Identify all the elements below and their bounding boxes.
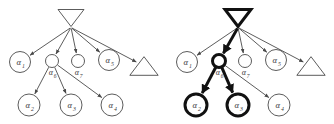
left-panel-node-tri_leaf-triangle	[130, 57, 158, 76]
svg-text:3: 3	[239, 106, 243, 112]
diagram-canvas: α1α6α7α5α2α3α4α1α6α7α5α2α3α4	[0, 0, 334, 124]
svg-text:5: 5	[111, 61, 114, 67]
highlighted-tree: α1α6α7α5α2α3α4	[177, 10, 326, 117]
right-panel-node-tri_leaf-triangle	[297, 57, 325, 76]
svg-text:1: 1	[189, 63, 192, 69]
svg-text:2: 2	[198, 106, 201, 112]
svg-text:α: α	[276, 100, 281, 110]
left-panel-node-a6	[46, 55, 59, 68]
tree-diagram-svg: α1α6α7α5α2α3α4α1α6α7α5α2α3α4	[0, 0, 334, 124]
right-panel-root-triangle-node	[225, 10, 251, 27]
svg-text:α: α	[68, 100, 73, 110]
right-panel-node-a6	[213, 55, 226, 68]
svg-text:5: 5	[278, 61, 281, 67]
edge-a6-to-a2	[35, 67, 49, 94]
svg-text:4: 4	[281, 106, 284, 112]
svg-text:6: 6	[221, 73, 224, 79]
svg-text:α: α	[26, 100, 31, 110]
svg-text:α: α	[106, 55, 111, 65]
svg-text:7: 7	[247, 73, 250, 79]
svg-text:α: α	[17, 57, 22, 67]
original-tree: α1α6α7α5α2α3α4	[10, 10, 159, 117]
svg-text:7: 7	[80, 73, 83, 79]
edge-a6-to-a2	[202, 67, 216, 93]
svg-text:6: 6	[54, 73, 57, 79]
left-panel-node-label-a7: α7	[75, 68, 83, 79]
svg-text:2: 2	[31, 106, 34, 112]
right-panel-node-a7	[239, 55, 252, 68]
left-panel-node-a7	[72, 55, 85, 68]
svg-text:α: α	[184, 57, 189, 67]
svg-text:1: 1	[22, 63, 25, 69]
edge-a6-to-a4	[58, 65, 102, 97]
svg-text:α: α	[109, 100, 114, 110]
svg-text:3: 3	[72, 106, 76, 112]
edge-a6-to-a3	[222, 67, 233, 92]
svg-text:4: 4	[114, 106, 117, 112]
edge-a6-to-a3	[55, 67, 66, 93]
edge-root-to-a7	[238, 28, 243, 53]
svg-text:α: α	[235, 100, 240, 110]
edge-root-to-a7	[71, 28, 76, 53]
edge-root-to-a1	[30, 28, 70, 55]
left-panel-root-triangle-node	[58, 10, 84, 27]
svg-text:α: α	[193, 100, 198, 110]
svg-text:α: α	[273, 55, 278, 65]
right-panel-node-label-a7: α7	[242, 68, 250, 79]
